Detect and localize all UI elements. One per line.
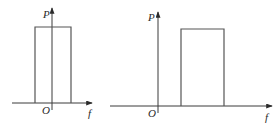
left-y-axis-label: P bbox=[42, 8, 50, 20]
right-diagram: P O f bbox=[110, 11, 272, 123]
right-x-axis-label: f bbox=[265, 111, 270, 123]
left-diagram: P O f bbox=[12, 8, 93, 119]
diagram-canvas: P O f P O f bbox=[0, 0, 280, 129]
right-spectrum-rect bbox=[181, 29, 224, 106]
right-y-axis-label: P bbox=[147, 11, 155, 23]
left-x-axis-label: f bbox=[88, 107, 93, 119]
left-origin-label: O bbox=[42, 104, 50, 116]
left-spectrum-rect bbox=[35, 27, 71, 103]
right-origin-label: O bbox=[148, 107, 156, 119]
